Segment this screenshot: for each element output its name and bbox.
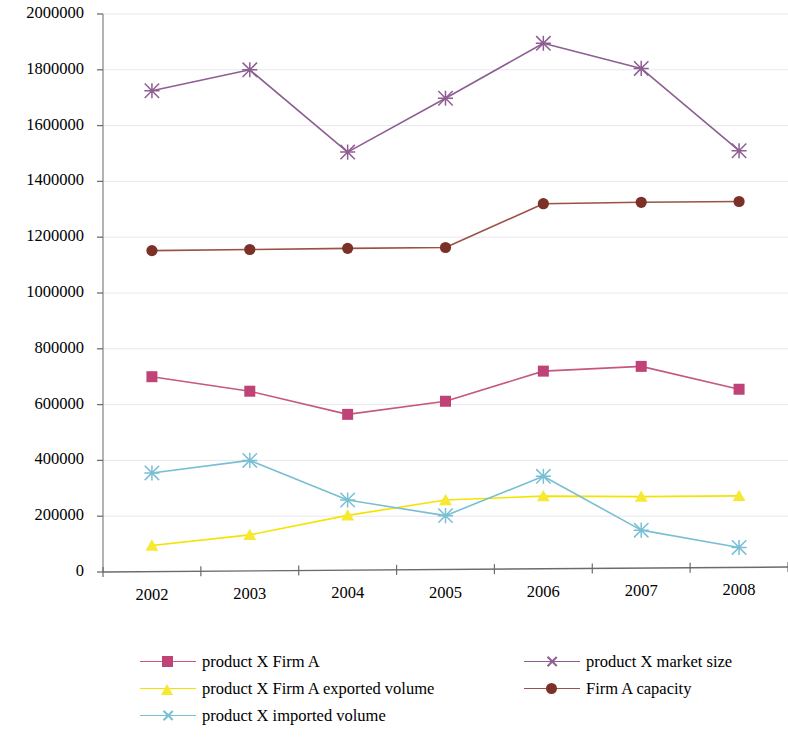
data-point-marker [734,384,745,395]
data-point-marker [538,198,549,209]
data-point-marker [146,245,157,256]
data-point-marker [144,83,159,98]
data-point-marker [438,91,453,106]
series-4 [144,36,746,160]
x-axis-line [103,567,788,572]
data-point-marker [634,61,649,76]
data-point-marker [636,361,647,372]
data-point-marker [438,508,453,523]
data-point-marker [340,145,355,160]
legend-marker-glyph [545,655,558,668]
series-5 [146,196,744,256]
legend-marker-swatch [546,656,558,668]
data-point-marker [536,36,551,51]
legend-item-label: product X Firm A exported volume [196,679,434,699]
data-point-marker [440,396,451,407]
legend-marker-glyph [161,684,173,695]
data-point-marker [634,523,649,538]
data-point-marker [536,469,551,484]
legend-key-triangle-icon [140,679,196,699]
data-point-marker [636,197,647,208]
data-point-marker [242,62,257,77]
legend-item-label: product X market size [580,652,732,672]
legend-key-square-icon [140,652,196,672]
legend-item[interactable]: product X market size [524,648,732,675]
legend-column-right: product X market sizeFirm A capacity [524,648,732,702]
series-line [152,366,739,414]
legend-item[interactable]: product X Firm A [140,648,434,675]
legend-marker-glyph [546,683,557,694]
chart-legend: product X Firm Aproduct X Firm A exporte… [0,648,788,742]
data-point-marker [244,386,255,397]
data-point-marker [732,540,747,555]
data-point-marker [440,242,451,253]
legend-key-x-icon [140,706,196,726]
legend-item[interactable]: product X Firm A exported volume [140,675,434,702]
line-chart: 0200000400000600000800000100000012000001… [0,0,788,742]
data-point-marker [244,244,255,255]
data-point-marker [733,196,744,207]
data-point-marker [242,453,257,468]
data-point-marker [538,366,549,377]
legend-marker-swatch [162,656,173,667]
data-point-marker [732,143,747,158]
legend-key-circle-icon [524,679,580,699]
legend-marker-swatch [162,683,173,695]
legend-marker-glyph [161,709,174,722]
legend-item-label: product X imported volume [196,706,386,726]
legend-item[interactable]: Firm A capacity [524,675,732,702]
legend-item-label: Firm A capacity [580,679,691,699]
plot-area [0,0,788,742]
data-point-marker [342,243,353,254]
legend-marker-glyph [162,656,173,667]
data-point-marker [340,492,355,507]
legend-column-left: product X Firm Aproduct X Firm A exporte… [140,648,434,729]
legend-marker-swatch [162,710,174,722]
legend-marker-swatch [546,683,557,694]
series-1 [146,361,744,420]
data-point-marker [342,409,353,420]
data-point-marker [146,371,157,382]
legend-item[interactable]: product X imported volume [140,702,434,729]
legend-key-x-icon [524,652,580,672]
legend-item-label: product X Firm A [196,652,320,672]
data-point-marker [144,465,159,480]
